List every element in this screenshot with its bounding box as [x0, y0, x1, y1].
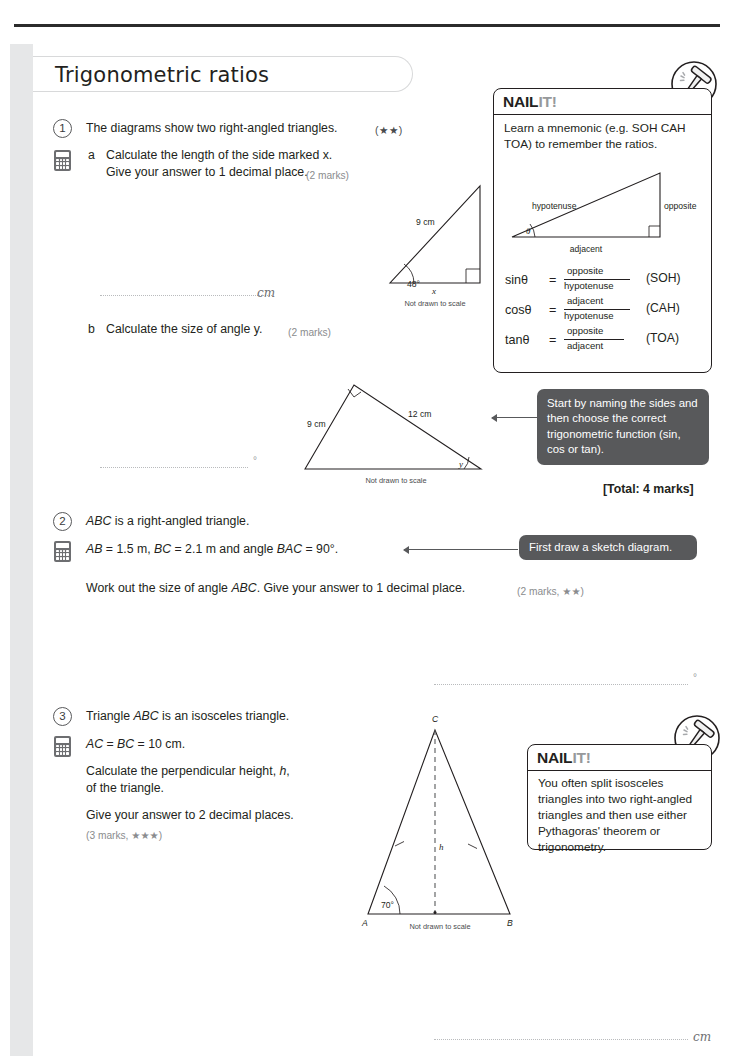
question-number-2: 2 — [53, 512, 72, 531]
svg-text:θ: θ — [526, 226, 531, 236]
answer-line-2[interactable] — [434, 684, 688, 685]
question-2-marks: (2 marks, ★★) — [517, 584, 584, 599]
svg-text:9 cm: 9 cm — [416, 217, 435, 227]
question-1-stars: (★★) — [375, 123, 403, 138]
page-title-text: Trigonometric ratios — [55, 63, 269, 87]
page-title: Trigonometric ratios — [33, 56, 413, 92]
worksheet-page: Trigonometric ratios 1 The diagrams show… — [0, 0, 734, 1056]
nailit-1-body: Learn a mnemonic (e.g. SOH CAH TOA) to r… — [504, 120, 702, 152]
question-1a-line2: Give your answer to 1 decimal place. — [106, 165, 308, 180]
nailit-1-label-a: NAIL — [503, 93, 538, 110]
answer-line-1a[interactable] — [100, 295, 272, 296]
svg-text:x: x — [431, 286, 436, 296]
svg-text:12 cm: 12 cm — [408, 409, 431, 419]
answer-unit-1b: ° — [253, 455, 257, 466]
question-3-line5: Give your answer to 2 decimal places. — [86, 808, 294, 823]
svg-text:70°: 70° — [381, 900, 394, 910]
diagram-triangle-3: C A B 70° h Not drawn to scale — [340, 702, 540, 927]
hint-arrow-2 — [404, 549, 518, 550]
question-1a-letter: a — [88, 148, 95, 163]
svg-text:adjacent: adjacent — [570, 244, 603, 254]
question-1-stem: The diagrams show two right-angled trian… — [86, 121, 338, 136]
answer-line-3[interactable] — [434, 1039, 688, 1040]
svg-text:Not drawn to scale: Not drawn to scale — [404, 299, 465, 308]
svg-text:C: C — [432, 714, 439, 724]
ratio-sin-den: hypotenuse — [564, 280, 614, 291]
ratio-tan-fn: tanθ — [505, 333, 530, 347]
nailit-2-label-a: NAIL — [537, 749, 572, 766]
hint-callout-1: Start by naming the sides and then choos… — [537, 389, 709, 465]
question-3-line3: Calculate the perpendicular height, h, — [86, 764, 290, 779]
question-number-1: 1 — [53, 119, 72, 138]
svg-text:Not drawn to scale: Not drawn to scale — [365, 476, 426, 485]
answer-line-1b[interactable] — [100, 467, 248, 468]
svg-text:h: h — [439, 842, 444, 852]
question-2-line1: ABC is a right-angled triangle. — [86, 514, 249, 529]
ratio-cos-num: adjacent — [567, 295, 603, 306]
nailit-box-2: NAILIT! You often split isosceles triang… — [527, 744, 712, 850]
diagram-triangle-1a: 48° 9 cm x Not drawn to scale — [370, 178, 500, 298]
hint-arrow-1 — [492, 417, 538, 418]
question-1a-line1: Calculate the length of the side marked … — [106, 148, 332, 163]
ratio-cos-den: hypotenuse — [564, 310, 614, 321]
svg-text:Not drawn to scale: Not drawn to scale — [409, 922, 470, 931]
question-1b-line1: Calculate the size of angle y. — [106, 322, 262, 337]
question-2-line2: AB = 1.5 m, BC = 2.1 m and angle BAC = 9… — [86, 542, 338, 557]
ratio-cos-mnemonic: (CAH) — [646, 301, 680, 315]
calculator-icon-1 — [54, 150, 71, 171]
nailit-box-1: NAILIT! Learn a mnemonic (e.g. SOH CAH T… — [493, 88, 712, 373]
svg-text:opposite: opposite — [664, 201, 697, 211]
total-marks-1: [Total: 4 marks] — [603, 482, 694, 496]
svg-text:B: B — [507, 918, 513, 928]
nailit-1-label: NAILIT! — [503, 93, 557, 111]
answer-unit-1a: cm — [257, 286, 275, 300]
ratio-sin-mnemonic: (SOH) — [646, 271, 681, 285]
svg-text:48°: 48° — [407, 279, 420, 289]
nailit-2-label: NAILIT! — [537, 749, 591, 767]
answer-unit-2: ° — [693, 672, 697, 683]
page-top-rule — [14, 24, 720, 27]
question-number-3: 3 — [53, 707, 72, 726]
nailit-2-header: NAILIT! — [528, 745, 711, 771]
svg-text:9 cm: 9 cm — [307, 419, 326, 429]
ratio-cos-fn: cosθ — [505, 303, 532, 317]
question-1b-letter: b — [88, 322, 95, 337]
svg-text:y: y — [458, 459, 463, 469]
question-3-line2: AC = BC = 10 cm. — [86, 737, 185, 752]
nailit-1-header: NAILIT! — [494, 89, 711, 115]
svg-text:A: A — [361, 918, 368, 928]
nailit-1-diagram: hypotenuse opposite adjacent θ — [502, 161, 702, 257]
question-1b-marks: (2 marks) — [288, 325, 331, 340]
question-3-marks: (3 marks, ★★★) — [86, 828, 162, 843]
svg-text:hypotenuse: hypotenuse — [532, 201, 577, 211]
question-2-line3: Work out the size of angle ABC. Give you… — [86, 581, 465, 596]
calculator-icon-3 — [54, 736, 71, 757]
calculator-icon-2 — [54, 541, 71, 562]
left-margin-strip — [10, 44, 33, 1056]
answer-unit-3: cm — [693, 1030, 711, 1044]
question-3-line1: Triangle ABC is an isosceles triangle. — [86, 709, 289, 724]
ratio-sin-num: opposite — [567, 265, 603, 276]
nailit-1-text-line2: TOA) to remember the ratios. — [504, 136, 702, 152]
nailit-1-label-b: IT! — [538, 93, 556, 110]
nailit-2-label-b: IT! — [572, 749, 590, 766]
hint-callout-2: First draw a sketch diagram. — [519, 535, 697, 560]
ratio-tan-num: opposite — [567, 325, 603, 336]
ratio-tan-den: adjacent — [567, 340, 603, 351]
question-3-line4: of the triangle. — [86, 781, 164, 796]
nailit-1-text-line1: Learn a mnemonic (e.g. SOH CAH — [504, 120, 702, 136]
question-1a-marks: (2 marks) — [306, 168, 349, 183]
diagram-triangle-1b: 9 cm 12 cm y Not drawn to scale — [296, 372, 496, 487]
nailit-2-body: You often split isosceles triangles into… — [538, 775, 702, 855]
ratio-sin-fn: sinθ — [505, 273, 528, 287]
ratio-tan-mnemonic: (TOA) — [646, 331, 679, 345]
